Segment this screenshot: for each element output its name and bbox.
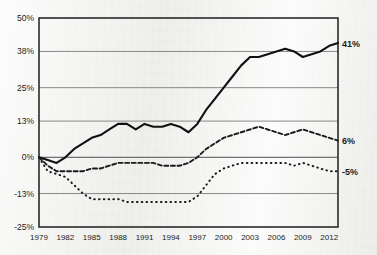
x-tick-label: 1988: [109, 233, 127, 242]
end-label-middle: 6%: [342, 136, 355, 146]
x-tick-label: 1985: [83, 233, 101, 242]
x-tick-label: 1991: [136, 233, 154, 242]
line-chart: 50%38%25%13%0%-13%-25% 19791982198519881…: [0, 0, 377, 255]
x-tick-label: 2000: [215, 233, 233, 242]
y-axis-tick-labels: 50%38%25%13%0%-13%-25%: [14, 13, 34, 232]
x-tick-label: 2012: [320, 233, 338, 242]
x-tick-label: 2003: [241, 233, 259, 242]
data-series: [39, 43, 338, 202]
series-line-bottom: [39, 157, 338, 202]
y-tick-label: 50%: [17, 13, 34, 23]
x-tick-label: 1979: [30, 233, 48, 242]
y-tick-label: 13%: [17, 116, 34, 126]
x-tick-label: 1994: [162, 233, 180, 242]
end-label-top: 41%: [342, 39, 360, 49]
end-label-bottom: -5%: [342, 167, 358, 177]
plot-frame: [39, 18, 338, 227]
y-tick-label: 0%: [22, 152, 35, 162]
x-tick-label: 2009: [294, 233, 312, 242]
gridlines: [39, 51, 338, 193]
y-tick-label: -13%: [14, 189, 34, 199]
series-line-middle: [39, 127, 338, 172]
x-tick-label: 1997: [188, 233, 206, 242]
series-line-top: [39, 43, 338, 163]
y-tick-label: -25%: [14, 222, 34, 232]
x-tick-label: 2006: [268, 233, 286, 242]
series-end-labels: 41%6%-5%: [342, 39, 360, 177]
x-axis-tick-labels: 1979198219851988199119941997200020032006…: [30, 233, 339, 242]
y-tick-label: 25%: [17, 83, 34, 93]
x-tick-label: 1982: [56, 233, 74, 242]
y-tick-label: 38%: [17, 46, 34, 56]
